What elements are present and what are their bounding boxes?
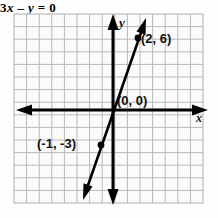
point-label-2-6: (2, 6) bbox=[141, 32, 171, 45]
coordinate-plane-svg bbox=[0, 0, 218, 218]
point-label-0-0: (0, 0) bbox=[117, 94, 147, 107]
graph-figure: (2, 6) (0, 0) (-1, -3) 3x – y = 0 y x bbox=[0, 0, 218, 218]
y-axis-label: y bbox=[119, 16, 125, 29]
point-label-neg1-neg3: (-1, -3) bbox=[37, 137, 76, 150]
point-marker-lower bbox=[98, 142, 105, 149]
x-axis-label: x bbox=[196, 112, 202, 124]
